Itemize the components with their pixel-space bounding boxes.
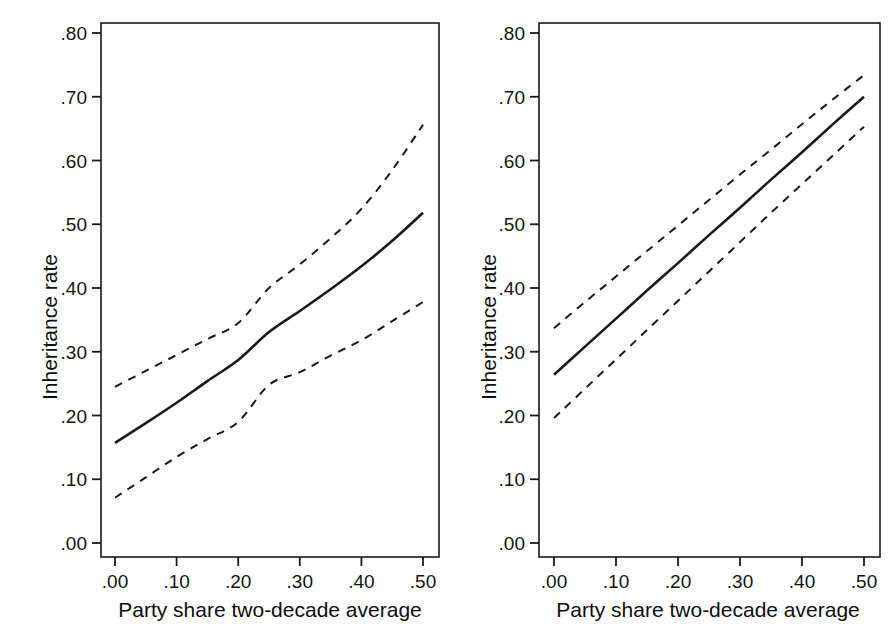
y-axis-tick-label: .70	[499, 87, 525, 108]
y-axis-tick-label: .80	[499, 23, 525, 44]
y-axis-tick-label: .30	[499, 342, 525, 363]
confidence-interval-line	[115, 125, 423, 387]
y-axis-tick-label: .00	[499, 533, 525, 554]
y-axis-tick-label: .20	[499, 406, 525, 427]
x-axis-tick-label: .30	[287, 571, 313, 592]
fit-line	[554, 97, 864, 375]
x-axis-title-left: Party share two-decade average	[101, 598, 439, 622]
x-axis-tick-label: .40	[348, 571, 374, 592]
y-axis-title-left: Inheritance rate	[38, 254, 62, 400]
y-axis-tick-label: .20	[61, 406, 87, 427]
fit-line	[115, 213, 423, 443]
y-axis-tick-label: .50	[61, 214, 87, 235]
x-axis-tick-label: .00	[541, 571, 567, 592]
x-axis-tick-label: .50	[851, 571, 877, 592]
chart-panel-right: .00.10.20.30.40.50.60.70.80.00.10.20.30.…	[447, 0, 894, 638]
y-axis-tick-label: .10	[499, 469, 525, 490]
y-axis-tick-label: .40	[499, 278, 525, 299]
y-axis-tick-label: .30	[61, 342, 87, 363]
y-axis-tick-label: .00	[61, 533, 87, 554]
plot-svg-right: .00.10.20.30.40.50.60.70.80.00.10.20.30.…	[447, 0, 894, 638]
x-axis-tick-label: .30	[727, 571, 753, 592]
y-axis-tick-label: .10	[61, 469, 87, 490]
y-axis-tick-label: .70	[61, 87, 87, 108]
confidence-interval-line	[554, 75, 864, 328]
x-axis-tick-label: .00	[102, 571, 128, 592]
plot-svg-left: .00.10.20.30.40.50.60.70.80.00.10.20.30.…	[0, 0, 447, 638]
x-axis-tick-label: .10	[163, 571, 189, 592]
x-axis-tick-label: .20	[665, 571, 691, 592]
chart-panel-left: .00.10.20.30.40.50.60.70.80.00.10.20.30.…	[0, 0, 447, 638]
y-axis-tick-label: .40	[61, 278, 87, 299]
y-axis-tick-label: .60	[61, 151, 87, 172]
x-axis-tick-label: .40	[789, 571, 815, 592]
plot-frame	[539, 23, 880, 557]
x-axis-tick-label: .50	[410, 571, 436, 592]
y-axis-tick-label: .60	[499, 151, 525, 172]
y-axis-tick-label: .50	[499, 214, 525, 235]
x-axis-title-right: Party share two-decade average	[539, 598, 877, 622]
confidence-interval-line	[554, 127, 864, 418]
figure-root: .00.10.20.30.40.50.60.70.80.00.10.20.30.…	[0, 0, 894, 638]
y-axis-tick-label: .80	[61, 23, 87, 44]
plot-frame	[101, 23, 439, 557]
y-axis-title-right: Inheritance rate	[477, 254, 501, 400]
x-axis-tick-label: .20	[225, 571, 251, 592]
x-axis-tick-label: .10	[603, 571, 629, 592]
